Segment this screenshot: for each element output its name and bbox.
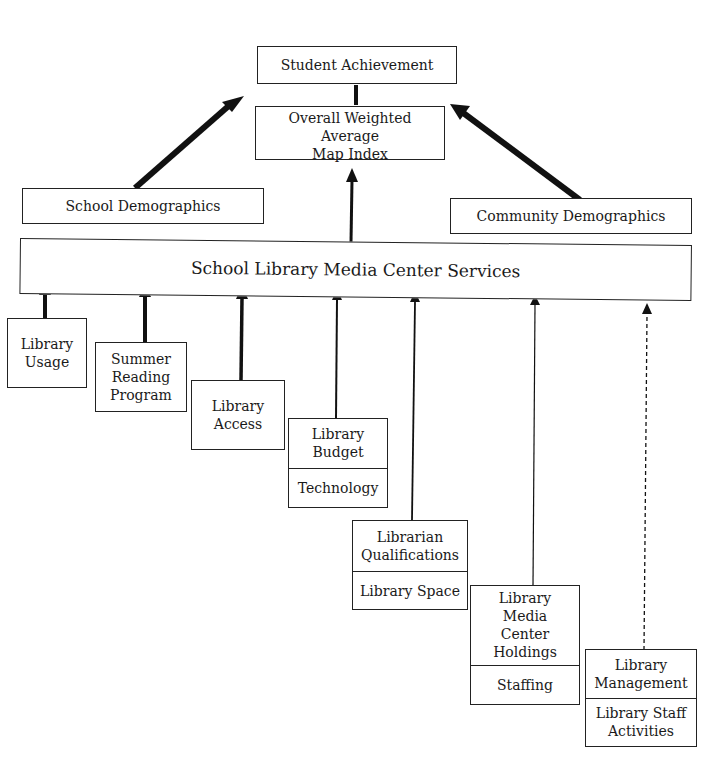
- factor-label: Library Management: [586, 650, 696, 698]
- services-box: School Library Media Center Services: [19, 238, 692, 301]
- factor-label: Librarian Qualifications: [353, 521, 467, 571]
- map-index-box: Overall Weighted Average Map Index: [255, 106, 445, 160]
- community-demographics-label: Community Demographics: [451, 199, 691, 233]
- factor-library-budget: Library Budget Technology: [288, 418, 388, 508]
- map-index-label: Overall Weighted Average Map Index: [256, 107, 444, 165]
- factor-label: Library Usage: [8, 319, 86, 387]
- factor-label: Library Media Center Holdings: [471, 586, 579, 665]
- student-achievement-box: Student Achievement: [257, 46, 457, 84]
- factor-label: Summer Reading Program: [96, 343, 186, 411]
- factor-sublabel: Technology: [289, 468, 387, 507]
- factor-sublabel: Library Space: [353, 571, 467, 609]
- factor-sublabel: Library Staff Activities: [586, 698, 696, 747]
- arrow-school-demographics: [135, 103, 232, 188]
- factor-library-access: Library Access: [191, 380, 285, 450]
- arrow-community-demographics: [462, 112, 580, 200]
- services-label: School Library Media Center Services: [20, 239, 691, 300]
- community-demographics-box: Community Demographics: [450, 198, 692, 234]
- factor-library-usage: Library Usage: [7, 318, 87, 388]
- school-demographics-label: School Demographics: [23, 189, 263, 223]
- factor-media-center-holdings: Library Media Center Holdings Staffing: [470, 585, 580, 705]
- factor-summer-reading: Summer Reading Program: [95, 342, 187, 412]
- factor-label: Library Budget: [289, 419, 387, 468]
- school-demographics-box: School Demographics: [22, 188, 264, 224]
- factor-sublabel: Staffing: [471, 665, 579, 704]
- student-achievement-label: Student Achievement: [258, 47, 456, 83]
- factor-library-management: Library Management Library Staff Activit…: [585, 649, 697, 747]
- factor-librarian-qualifications: Librarian Qualifications Library Space: [352, 520, 468, 610]
- factor-label: Library Access: [192, 381, 284, 449]
